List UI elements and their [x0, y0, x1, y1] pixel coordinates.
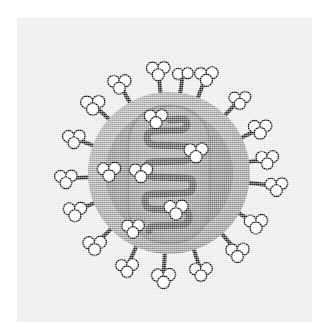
spike-n-head [152, 69, 164, 81]
spike-s-head [157, 276, 169, 288]
protein-cluster-left-mid-head [135, 171, 147, 183]
spike-w [55, 170, 93, 189]
spike-ese-head [250, 222, 262, 234]
protein-cluster-lower-left-head [127, 227, 139, 239]
spike-nne-head [200, 74, 212, 86]
spike-nne [195, 67, 218, 102]
spike-se-head [231, 250, 243, 262]
protein-cluster-top-head [150, 117, 162, 129]
spike-ene [237, 120, 272, 140]
spike-e [244, 178, 287, 197]
virion-scene [17, 18, 312, 322]
spike-e-upper-head [261, 158, 273, 170]
virus-diagram-figure [0, 0, 330, 335]
spike-n [146, 61, 169, 97]
spike-wnw [63, 130, 98, 149]
spike-sse [190, 245, 213, 281]
virion-svg [17, 18, 312, 322]
spike-n2-head [182, 67, 193, 78]
spike-nw-head [87, 103, 99, 115]
protein-cluster-lower-mid-head [170, 208, 182, 220]
spike-nnw-head [113, 82, 125, 94]
spike-wsw-head [69, 210, 81, 222]
spike-se [219, 230, 249, 262]
spike-sw-head [89, 244, 101, 256]
spike-sw [83, 226, 114, 256]
protein-cluster-outer-left-head [103, 170, 115, 182]
spike-ssw [116, 242, 139, 277]
spike-ene-head [254, 127, 266, 139]
spike-nw [81, 95, 113, 122]
spike-ssw-head [121, 266, 133, 278]
protein-cluster-upper-right-head [190, 151, 202, 163]
spike-ne-head [234, 98, 245, 109]
spike-ne [222, 91, 251, 118]
spike-sse-head [195, 270, 207, 282]
spike-nnw [108, 75, 132, 107]
spike-wnw-head [68, 137, 80, 149]
spike-wsw [63, 201, 98, 221]
spike-e-head [271, 185, 283, 197]
spike-w-head [60, 177, 72, 189]
spike-ese [235, 211, 268, 234]
illustration-panel [17, 18, 312, 322]
spike-s [151, 249, 175, 289]
